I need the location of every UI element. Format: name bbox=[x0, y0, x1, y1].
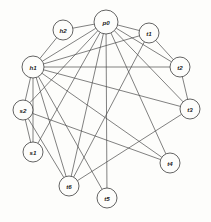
graph-node-h2[interactable]: h2 bbox=[53, 20, 73, 40]
graph-edge bbox=[74, 42, 145, 177]
graph-edge bbox=[36, 78, 66, 177]
network-diagram-canvas: p0h2t1h1t2t3s2s1t4t6t5 bbox=[0, 0, 211, 222]
graph-node-t3[interactable]: t3 bbox=[180, 99, 200, 119]
node-circle-t5[interactable] bbox=[97, 188, 117, 208]
graph-node-t6[interactable]: t6 bbox=[59, 176, 79, 196]
graph-node-t4[interactable]: t4 bbox=[160, 153, 180, 173]
node-circle-t1[interactable] bbox=[139, 23, 159, 43]
graph-edge bbox=[73, 24, 94, 28]
node-circle-p0[interactable] bbox=[94, 10, 118, 34]
graph-edge bbox=[44, 36, 140, 64]
node-circle-t3[interactable] bbox=[180, 99, 200, 119]
graph-edge bbox=[182, 77, 187, 100]
node-circle-s2[interactable] bbox=[13, 100, 33, 120]
graph-node-h1[interactable]: h1 bbox=[22, 56, 44, 78]
node-circle-t4[interactable] bbox=[160, 153, 180, 173]
graph-node-t5[interactable]: t5 bbox=[97, 188, 117, 208]
graph-edge bbox=[106, 34, 107, 188]
node-circle-s1[interactable] bbox=[23, 142, 43, 162]
graph-node-t1[interactable]: t1 bbox=[139, 23, 159, 43]
graph-node-s1[interactable]: s1 bbox=[23, 142, 43, 162]
graph-edge bbox=[111, 33, 166, 154]
node-circle-t6[interactable] bbox=[59, 176, 79, 196]
node-circle-t2[interactable] bbox=[170, 57, 190, 77]
graph-node-p0[interactable]: p0 bbox=[94, 10, 118, 34]
graph-edge bbox=[44, 70, 181, 107]
graph-node-s2[interactable]: s2 bbox=[13, 100, 33, 120]
graph-edge bbox=[25, 120, 30, 143]
graph-edge bbox=[40, 38, 57, 59]
graph-edge bbox=[32, 113, 160, 159]
graph-edge bbox=[25, 78, 30, 101]
graph-edge bbox=[118, 25, 140, 31]
graph-node-t2[interactable]: t2 bbox=[170, 57, 190, 77]
graph-edge bbox=[156, 40, 174, 59]
network-graph: p0h2t1h1t2t3s2s1t4t6t5 bbox=[0, 0, 211, 222]
node-circle-h2[interactable] bbox=[53, 20, 73, 40]
node-circle-h1[interactable] bbox=[22, 56, 44, 78]
